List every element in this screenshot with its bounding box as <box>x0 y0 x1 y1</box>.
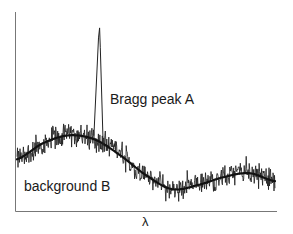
x-axis-label: λ <box>142 214 149 229</box>
bragg-peak-label: Bragg peak A <box>110 91 195 107</box>
chart: Bragg peak A background B λ <box>0 0 293 234</box>
bragg-peak-line <box>94 28 103 146</box>
background-label: background B <box>24 178 110 194</box>
